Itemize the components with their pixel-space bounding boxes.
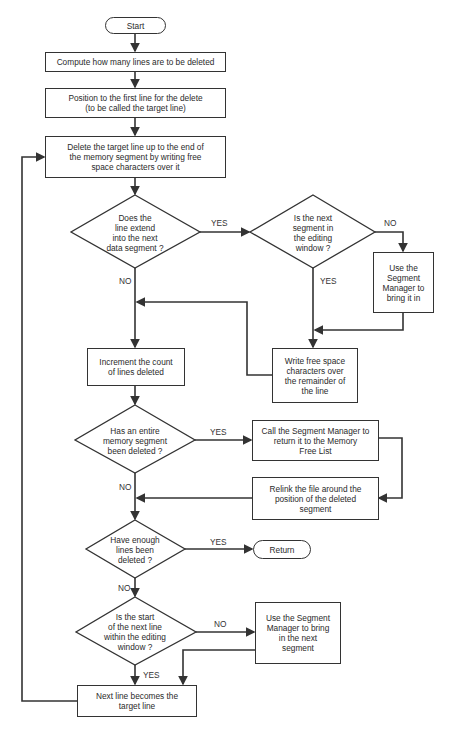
label-no-start-window: NO xyxy=(214,619,226,629)
write-free-space-box: Write free space characters over the rem… xyxy=(272,348,358,403)
decision-window-text: Is the next segment in the editing windo… xyxy=(273,205,353,260)
label-no-extend: NO xyxy=(119,276,131,286)
label-no-enough: NO xyxy=(118,583,130,593)
compute-lines-box: Compute how many lines are to be deleted xyxy=(45,52,226,72)
label-yes-window: YES xyxy=(320,276,337,286)
call-segment-manager-return-box: Call the Segment Manager to return it to… xyxy=(252,420,379,461)
start-terminal: Start xyxy=(105,17,166,34)
delete-target-line-box: Delete the target line up to the end of … xyxy=(45,136,226,178)
position-first-line-box: Position to the first line for the delet… xyxy=(45,88,226,118)
label-yes-segment-deleted: YES xyxy=(210,427,227,437)
label-yes-extend: YES xyxy=(211,218,228,228)
label-no-segment-deleted: NO xyxy=(119,482,131,492)
decision-extend-text: Does the line extend into the next data … xyxy=(95,205,175,260)
use-segment-manager-next-box: Use the Segment Manager to bring in the … xyxy=(255,602,341,664)
return-terminal: Return xyxy=(253,540,311,559)
label-yes-enough: YES xyxy=(210,537,227,547)
label-no-window: NO xyxy=(384,218,396,228)
decision-segment-deleted-text: Has an entire memory segment been delete… xyxy=(90,418,180,463)
decision-start-window-text: Is the start of the next line within the… xyxy=(90,608,180,656)
label-yes-start-window: YES xyxy=(143,670,160,680)
relink-file-box: Relink the file around the position of t… xyxy=(252,477,379,520)
decision-enough-text: Have enough lines been deleted ? xyxy=(100,527,170,572)
next-line-target-box: Next line becomes the target line xyxy=(77,685,197,717)
use-segment-manager-bring-in-box: Use the Segment Manager to bring it in xyxy=(373,252,434,313)
increment-count-box: Increment the count of lines deleted xyxy=(87,348,185,386)
